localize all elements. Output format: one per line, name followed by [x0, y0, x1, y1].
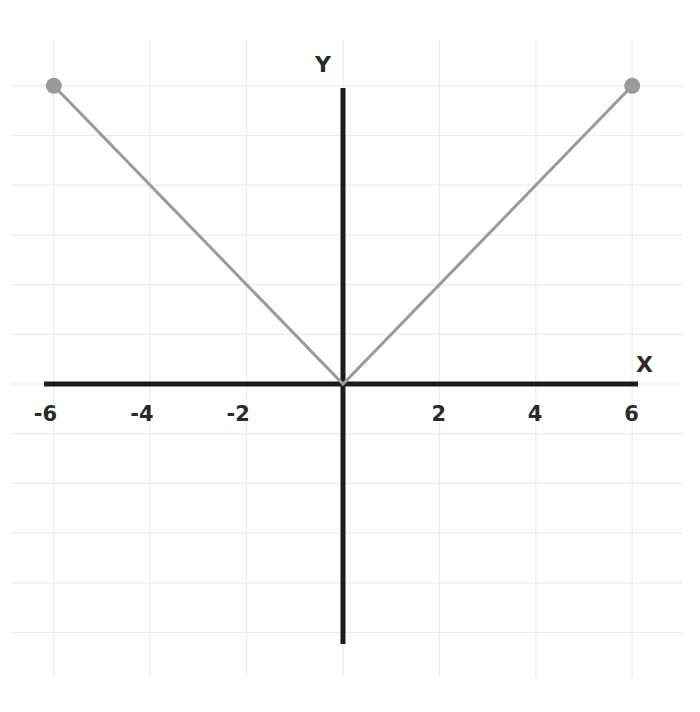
x-tick-labels: -6-4-2246	[34, 402, 639, 426]
x-tick-label: -4	[130, 402, 153, 426]
x-tick-label: -6	[34, 402, 57, 426]
grid-lines	[12, 40, 682, 678]
x-tick-label: 4	[528, 402, 543, 426]
x-tick-label: 2	[431, 402, 446, 426]
endpoint-marker	[46, 78, 62, 94]
chart-canvas: X Y -6-4-2246	[0, 0, 700, 712]
x-tick-label: -2	[227, 402, 250, 426]
endpoint-marker	[624, 78, 640, 94]
y-axis-label: Y	[314, 52, 332, 77]
x-tick-label: 6	[624, 402, 639, 426]
axes: X Y	[44, 52, 653, 644]
x-axis-label: X	[636, 352, 653, 377]
